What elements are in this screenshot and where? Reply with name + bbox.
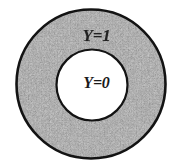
inner-region-label: Y=0	[0, 74, 193, 92]
annulus-diagram: Y=1 Y=0	[0, 0, 193, 167]
outer-region-label: Y=1	[0, 26, 193, 46]
